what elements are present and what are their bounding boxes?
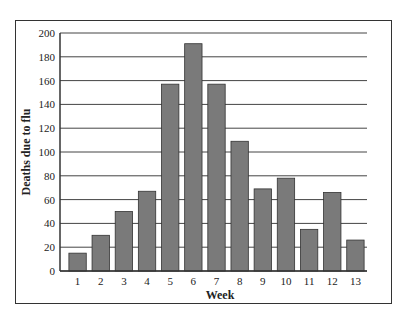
x-axis-label: Week xyxy=(206,288,235,302)
bar xyxy=(254,189,271,271)
x-tick-label: 4 xyxy=(144,275,150,287)
bar xyxy=(277,178,294,271)
y-tick-label: 140 xyxy=(39,98,56,110)
x-tick-label: 7 xyxy=(214,275,220,287)
x-tick-label: 10 xyxy=(280,275,292,287)
y-tick-label: 200 xyxy=(39,27,56,39)
bar xyxy=(185,44,202,271)
bar xyxy=(69,253,86,271)
x-tick-label: 8 xyxy=(237,275,243,287)
x-tick-label: 2 xyxy=(98,275,104,287)
bar xyxy=(231,141,248,271)
bar xyxy=(300,229,317,271)
y-tick-label: 0 xyxy=(50,265,56,277)
x-tick-label: 11 xyxy=(304,275,315,287)
bars xyxy=(69,44,364,271)
y-tick-label: 40 xyxy=(44,217,56,229)
y-tick-label: 60 xyxy=(44,194,56,206)
y-tick-label: 80 xyxy=(44,170,56,182)
bar xyxy=(92,235,109,271)
x-tick-label: 3 xyxy=(121,275,127,287)
y-tick-label: 180 xyxy=(39,51,56,63)
bar xyxy=(324,192,341,271)
bar xyxy=(138,191,155,271)
y-tick-label: 120 xyxy=(39,122,56,134)
x-tick-label: 12 xyxy=(327,275,338,287)
y-tick-label: 100 xyxy=(39,146,56,158)
x-tick-label: 5 xyxy=(167,275,173,287)
bar xyxy=(347,240,364,271)
x-tick-label: 13 xyxy=(350,275,362,287)
y-tick-label: 20 xyxy=(44,241,56,253)
y-axis-label: Deaths due to flu xyxy=(19,108,33,195)
y-tick-label: 160 xyxy=(39,75,56,87)
bar-chart: Deaths due to flu Week 02040608010012014… xyxy=(0,0,406,321)
x-tick-label: 9 xyxy=(260,275,266,287)
x-tick-label: 1 xyxy=(75,275,81,287)
bar xyxy=(115,212,132,272)
x-tick-label: 6 xyxy=(191,275,197,287)
bar xyxy=(162,84,179,271)
bar xyxy=(208,84,225,271)
